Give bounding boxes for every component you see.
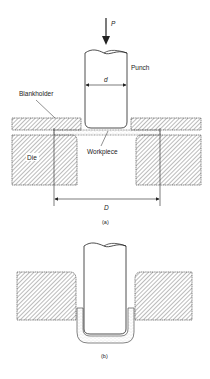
punch — [85, 50, 127, 128]
blankholder-leader — [36, 100, 55, 118]
punch-label: Punch — [131, 64, 150, 71]
force-arrow — [102, 18, 110, 45]
panel-a: P Punch d Blankholder Die Workpiece D — [12, 18, 201, 225]
punch-diameter-label: d — [104, 76, 108, 83]
die-right-b — [135, 272, 192, 320]
die-left — [12, 135, 77, 185]
die-label: Die — [27, 154, 37, 161]
deep-drawing-diagram: P Punch d Blankholder Die Workpiece D — [0, 0, 210, 379]
panel-b-caption: (b) — [101, 353, 108, 359]
die-left-b — [17, 272, 76, 320]
panel-b: (b) — [17, 243, 192, 359]
workpiece-label: Workpiece — [87, 148, 118, 156]
blankholder-label: Blankholder — [19, 90, 54, 97]
punch-b — [84, 243, 126, 334]
blankholder-right — [131, 118, 201, 130]
workpiece — [54, 130, 160, 135]
blankholder-left — [12, 118, 81, 130]
panel-a-caption: (a) — [102, 219, 109, 225]
die-right — [136, 135, 201, 185]
force-label: P — [111, 20, 116, 27]
blank-diameter-label: D — [104, 204, 109, 211]
